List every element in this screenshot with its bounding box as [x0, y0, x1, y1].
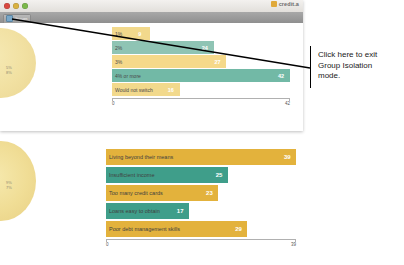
bar-row: Poor debt management skills29: [106, 221, 296, 237]
pie-top-label-2: 8%: [6, 70, 12, 75]
bar-value-label: 27: [214, 59, 220, 65]
bar-category-label: 1%: [115, 31, 122, 37]
close-icon[interactable]: [4, 3, 10, 9]
bar-value-label: 42: [278, 73, 284, 79]
axis-label-min: 0: [112, 101, 115, 106]
callout-line-2: Group Isolation: [318, 61, 402, 72]
maximize-icon[interactable]: [22, 3, 28, 9]
browser-window[interactable]: credit.a Groups 5% 8% 1%92%243%274% or m…: [0, 0, 303, 131]
bar-category-label: Loans easy to obtain: [109, 208, 160, 214]
exit-group-isolation-button[interactable]: Groups: [3, 14, 31, 24]
bar-category-label: Living beyond their means: [109, 154, 173, 160]
exit-group-isolation-label: Groups: [15, 16, 28, 21]
bar-value-label: 25: [216, 172, 223, 178]
bar-row: Would not switch16: [112, 83, 290, 96]
brand-logo-icon: [271, 1, 277, 7]
x-axis-line: [106, 239, 296, 240]
bar-row: 3%27: [112, 55, 290, 68]
axis-label-max: 42: [285, 101, 290, 106]
group-icon: [6, 15, 13, 22]
app-brand: credit.a: [271, 1, 299, 7]
bar-value-label: 23: [206, 190, 213, 196]
x-axis-line: [112, 98, 290, 99]
bar-row: 2%24: [112, 41, 290, 54]
axis-label-max: 39: [291, 242, 296, 247]
callout-line-1: Click here to exit: [318, 50, 402, 61]
bar-category-label: 2%: [115, 45, 122, 51]
bar-value-label: 16: [168, 87, 174, 93]
callout-annotation: Click here to exit Group Isolation mode.: [318, 50, 402, 82]
axis-label-min: 0: [106, 242, 109, 247]
bar-category-label: 4% or more: [115, 73, 141, 79]
bar-segment[interactable]: [112, 41, 214, 54]
bar-value-label: 39: [284, 154, 291, 160]
chart-plot-area: 1%92%243%274% or more42Would not switch1…: [112, 27, 290, 96]
bar-value-label: 17: [177, 208, 184, 214]
bar-category-label: Too many credit cards: [109, 190, 163, 196]
faded-pie-chart-top: [0, 28, 36, 98]
bar-category-label: Would not switch: [115, 87, 153, 93]
callout-bracket: [310, 46, 311, 88]
bar-segment[interactable]: [112, 55, 226, 68]
pie-top-labels: 5% 8%: [6, 65, 12, 75]
bar-row: Living beyond their means39: [106, 149, 296, 165]
bar-row: Insufficient income25: [106, 167, 296, 183]
bar-value-label: 29: [235, 226, 242, 232]
bar-category-label: Poor debt management skills: [109, 226, 180, 232]
bar-chart-rate-switch: 1%92%243%274% or more42Would not switch1…: [112, 27, 290, 127]
chart-plot-area: Living beyond their means39Insufficient …: [106, 149, 296, 237]
bar-category-label: Insufficient income: [109, 172, 154, 178]
bar-value-label: 24: [202, 45, 208, 51]
bar-value-label: 9: [138, 31, 141, 37]
pie-bottom-labels: 9% 7%: [6, 180, 12, 190]
minimize-icon[interactable]: [13, 3, 19, 9]
callout-line-3: mode.: [318, 71, 402, 82]
bar-category-label: 3%: [115, 59, 122, 65]
bar-chart-debt-causes: Living beyond their means39Insufficient …: [106, 149, 296, 257]
bar-row: Loans easy to obtain17: [106, 203, 296, 219]
brand-label: credit.a: [279, 1, 299, 7]
bar-row: Too many credit cards23: [106, 185, 296, 201]
pie-bottom-label-2: 7%: [6, 185, 12, 190]
window-controls[interactable]: [4, 3, 28, 9]
bar-row: 4% or more42: [112, 69, 290, 82]
bar-row: 1%9: [112, 27, 290, 40]
